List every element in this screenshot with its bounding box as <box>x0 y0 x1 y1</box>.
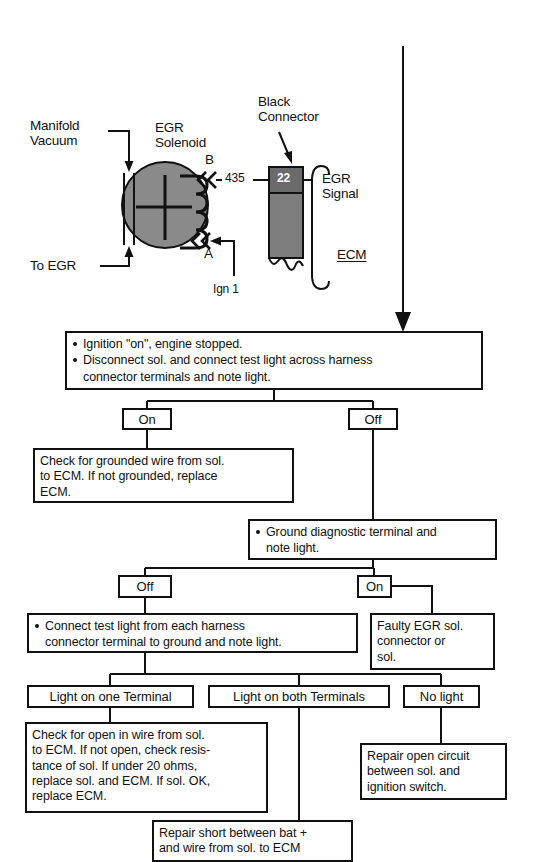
label-ign-1: Ign 1 <box>213 283 239 296</box>
manifold-vacuum-arrowhead <box>125 161 134 172</box>
label-terminal-b: B <box>205 152 214 167</box>
label-terminal-a: A <box>204 246 213 261</box>
label-pin-22: 22 <box>277 172 290 185</box>
label-egr-solenoid: EGR Solenoid <box>155 120 206 150</box>
step-ignition-on-box[interactable]: Ignition "on", engine stopped. Disconnec… <box>65 331 483 390</box>
check-grounded-line3: ECM. <box>40 485 287 500</box>
faulty-egr-solenoid-box[interactable]: Faulty EGR sol. connector or sol. <box>370 613 495 670</box>
connect-test-line1: Connect test light from each harness <box>34 619 351 634</box>
step1-line1: Ignition "on", engine stopped. <box>72 337 476 352</box>
black-connector-body <box>269 193 303 258</box>
no-light-box[interactable]: No light <box>403 685 480 708</box>
manifold-vacuum-lead <box>108 131 129 163</box>
repair-open-line2: between sol. and <box>367 764 500 779</box>
light-on-one-terminal-box[interactable]: Light on one Terminal <box>27 685 194 708</box>
branch-off-box-2[interactable]: Off <box>118 575 172 598</box>
branch-on-box-2[interactable]: On <box>357 575 392 598</box>
repair-short-line2: and wire from sol. to ECM <box>159 841 346 856</box>
faulty-egr-line1: Faulty EGR sol. <box>377 619 488 634</box>
to-egr-arrowhead <box>125 246 134 257</box>
check-open-line2: to ECM. If not open, check resis- <box>32 743 261 758</box>
label-circuit-435: 435 <box>225 172 244 185</box>
faulty-egr-line3: sol. <box>377 650 488 665</box>
conn-on-to-faultyegr <box>392 586 432 613</box>
repair-short-line1: Repair short between bat + <box>159 826 346 841</box>
repair-short-box[interactable]: Repair short between bat + and wire from… <box>152 820 353 862</box>
label-ecm: ECM <box>337 247 366 262</box>
check-open-line1: Check for open in wire from sol. <box>32 728 261 743</box>
ecm-bracket-bottom-curl <box>312 277 329 289</box>
step1-line3: connector terminals and note light. <box>72 370 476 385</box>
check-open-line3: tance of sol. If under 20 ohms, <box>32 759 261 774</box>
faulty-egr-line2: connector or <box>377 634 488 649</box>
ign1-arrowhead <box>210 237 221 246</box>
repair-open-line1: Repair open circuit <box>367 749 500 764</box>
check-open-line5: replace ECM. <box>32 789 261 804</box>
label-black-connector: Black Connector <box>258 94 319 124</box>
label-egr-signal: EGR Signal <box>322 171 358 201</box>
connect-test-line2: connector terminal to ground and note li… <box>34 635 351 650</box>
repair-open-line3: ignition switch. <box>367 780 500 795</box>
check-open-line4: replace sol. and ECM. If sol. OK, <box>32 774 261 789</box>
ground-diag-line1: Ground diagnostic terminal and <box>255 525 490 540</box>
branch-off-box-1[interactable]: Off <box>348 408 398 430</box>
check-open-in-wire-box[interactable]: Check for open in wire from sol. to ECM.… <box>25 722 268 813</box>
check-grounded-wire-box[interactable]: Check for grounded wire from sol. to ECM… <box>33 448 294 503</box>
branch-on-box-1[interactable]: On <box>122 408 172 430</box>
ign1-lead <box>220 241 234 276</box>
connect-test-light-box[interactable]: Connect test light from each harness con… <box>27 613 358 653</box>
connector-torn-edge <box>269 258 303 270</box>
main-flow-arrow-head <box>395 312 411 332</box>
to-egr-lead <box>100 256 129 266</box>
ground-diagnostic-terminal-box[interactable]: Ground diagnostic terminal and note ligh… <box>248 519 497 560</box>
check-grounded-line2: to ECM. If not grounded, replace <box>40 469 287 484</box>
label-to-egr: To EGR <box>30 258 76 273</box>
step1-line2: Disconnect sol. and connect test light a… <box>72 353 476 368</box>
light-on-both-terminals-box[interactable]: Light on both Terminals <box>208 685 390 708</box>
ground-diag-line2: note light. <box>255 541 490 556</box>
repair-open-circuit-box[interactable]: Repair open circuit between sol. and ign… <box>360 743 507 800</box>
check-grounded-line1: Check for grounded wire from sol. <box>40 454 287 469</box>
terminal-b-chevron-inner <box>208 172 216 188</box>
black-connector-pointer-arrowhead <box>284 151 292 164</box>
label-manifold-vacuum: Manifold Vacuum <box>30 118 79 148</box>
